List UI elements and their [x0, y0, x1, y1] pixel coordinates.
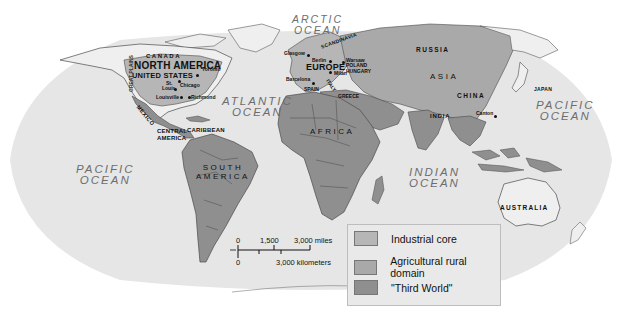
city-dot-toronto: [196, 74, 199, 77]
central-america-line2: AMERICA: [157, 135, 187, 142]
label-great-plains: GREAT PLAINS: [128, 55, 134, 92]
city-dot-richmond: [188, 96, 191, 99]
city-warsaw: Warsaw: [346, 57, 365, 63]
ocean-pacific-west-line2: OCEAN: [76, 175, 135, 186]
city-glasgow: Glasgow: [284, 50, 305, 56]
ocean-label-pacific-east: PACIFIC OCEAN: [536, 100, 595, 122]
label-india: INDIA: [430, 113, 450, 119]
legend-label-agricultural-rural-domain: Agricultural rural domain: [390, 255, 500, 279]
label-central-america: CENTRAL AMERICA: [157, 128, 187, 141]
city-dot-warsaw: [342, 61, 345, 64]
legend-label-third-world: "Third World": [391, 282, 453, 294]
ocean-pacific-east-line2: OCEAN: [536, 111, 595, 122]
city-dot-barcelona: [312, 82, 315, 85]
label-south-america: SOUTH AMERICA: [196, 163, 250, 181]
map-legend: Industrial core Agricultural rural domai…: [347, 224, 501, 306]
legend-swatch-agricultural-rural-domain: [354, 260, 377, 275]
label-africa: AFRICA: [310, 127, 354, 136]
central-america-line1: CENTRAL: [157, 128, 187, 135]
legend-swatch-industrial-core: [354, 231, 378, 246]
city-dot-canton: [494, 115, 497, 118]
city-dot-milan: [329, 71, 332, 74]
south-america-line2: AMERICA: [196, 172, 250, 181]
city-dot-glasgow: [307, 54, 310, 57]
city-milan: Milan: [334, 70, 347, 76]
legend-item-industrial-core: Industrial core: [354, 231, 457, 246]
city-toronto: Toronto: [202, 66, 221, 72]
label-asia: ASIA: [430, 72, 458, 81]
legend-item-agricultural-rural-domain: Agricultural rural domain: [354, 255, 500, 279]
legend-label-industrial-core: Industrial core: [391, 233, 457, 245]
city-chicago: Chicago: [180, 82, 200, 88]
scale-km-0: 0: [236, 258, 240, 267]
ocean-indian-line2: OCEAN: [409, 178, 460, 189]
label-spain: SPAIN: [304, 86, 319, 92]
city-richmond: Richmond: [191, 94, 215, 100]
city-louisville: Louisville: [156, 94, 179, 100]
city-dot-berlin: [329, 60, 332, 63]
ocean-label-atlantic: ATLANTIC OCEAN: [222, 96, 293, 118]
city-barcelona: Barcelona: [286, 76, 310, 82]
city-dot-st-louis: [174, 88, 177, 91]
city-dot-louisville: [180, 96, 183, 99]
label-china: CHINA: [457, 92, 485, 99]
label-greece: GREECE: [338, 93, 359, 99]
city-berlin: Berlin: [312, 57, 326, 63]
ocean-label-indian: INDIAN OCEAN: [409, 167, 460, 189]
ocean-label-pacific-west: PACIFIC OCEAN: [76, 164, 135, 186]
legend-swatch-third-world: [354, 280, 378, 295]
scale-km-3000: 3,000 kilometers: [276, 258, 331, 267]
label-russia: RUSSIA: [416, 46, 450, 53]
legend-item-third-world: "Third World": [354, 280, 453, 295]
scale-bar: 0 1,500 3,000 miles 0 3,000 kilometers: [228, 236, 348, 268]
label-poland-hungary: POLAND HUNGARY: [346, 63, 371, 74]
label-canada: CANADA: [146, 53, 181, 59]
label-australia: AUSTRALIA: [500, 204, 548, 211]
ocean-label-arctic: ARCTIC OCEAN: [292, 14, 343, 36]
label-japan: JAPAN: [534, 86, 552, 92]
city-dot-chicago: [178, 80, 181, 83]
hungary-line: HUNGARY: [346, 69, 371, 75]
south-america-line1: SOUTH: [196, 163, 250, 172]
label-united-states: UNITED STATES: [132, 71, 193, 80]
label-caribbean: CARIBBEAN: [187, 127, 225, 133]
ocean-atlantic-line2: OCEAN: [222, 107, 293, 118]
city-canton: Canton: [476, 110, 493, 116]
ocean-arctic-line2: OCEAN: [292, 25, 343, 36]
